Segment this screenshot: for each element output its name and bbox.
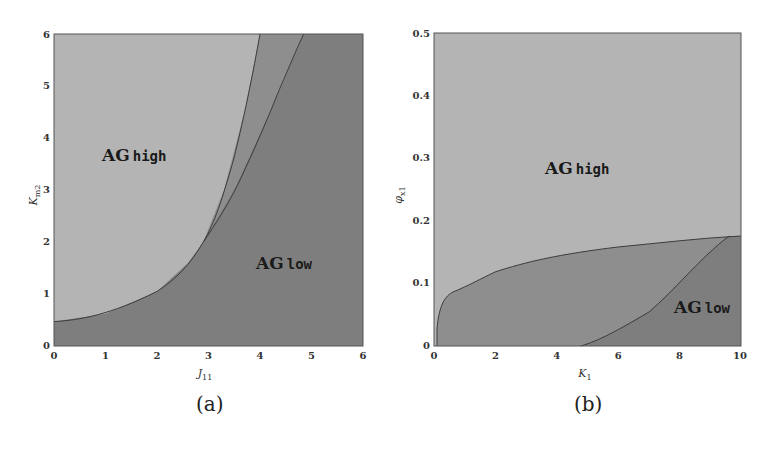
svg-text:3: 3 [205, 350, 212, 361]
label-ag-high-a: AGhigh [101, 145, 166, 165]
svg-text:2: 2 [492, 350, 499, 361]
y-axis-label-b: φx1 [392, 186, 407, 203]
x-axis-label-a: J11 [196, 367, 213, 382]
svg-text:4: 4 [553, 350, 560, 361]
svg-text:0.2: 0.2 [413, 215, 430, 226]
svg-text:4: 4 [257, 350, 264, 361]
svg-text:6: 6 [43, 29, 50, 40]
caption-a: (a) [196, 392, 224, 416]
svg-text:2: 2 [43, 236, 50, 247]
svg-text:0.3: 0.3 [413, 152, 430, 163]
svg-text:0: 0 [431, 350, 438, 361]
svg-text:3: 3 [43, 184, 50, 195]
caption-b: (b) [574, 392, 602, 416]
svg-text:2: 2 [154, 350, 161, 361]
svg-text:0.1: 0.1 [413, 277, 430, 288]
y-axis-label-a: Km2 [27, 185, 42, 207]
svg-text:0.4: 0.4 [413, 90, 430, 101]
svg-text:0: 0 [43, 340, 50, 351]
svg-text:10: 10 [733, 350, 747, 361]
svg-text:1: 1 [102, 350, 109, 361]
svg-text:6: 6 [615, 350, 622, 361]
svg-text:0.5: 0.5 [413, 28, 430, 39]
y-ticks-b: 0 0.1 0.2 0.3 0.4 0.5 [413, 28, 430, 351]
svg-text:0: 0 [51, 350, 58, 361]
chart-a: 0 1 2 3 4 5 6 0 1 2 3 4 5 6 J11 Km2 AGhi… [0, 0, 385, 390]
x-axis-label-b: K1 [577, 367, 591, 382]
svg-text:8: 8 [676, 350, 683, 361]
chart-b: 0 0.1 0.2 0.3 0.4 0.5 0 2 4 6 8 10 K1 φx… [385, 0, 770, 390]
y-ticks-a: 0 1 2 3 4 5 6 [43, 29, 50, 351]
x-ticks-a: 0 1 2 3 4 5 6 [51, 350, 367, 361]
svg-text:5: 5 [308, 350, 315, 361]
svg-text:6: 6 [360, 350, 367, 361]
svg-text:4: 4 [43, 132, 50, 143]
svg-text:5: 5 [43, 80, 50, 91]
svg-text:1: 1 [43, 288, 50, 299]
x-ticks-b: 0 2 4 6 8 10 [431, 350, 747, 361]
label-ag-high-b: AGhigh [544, 158, 609, 178]
svg-text:0: 0 [423, 340, 430, 351]
